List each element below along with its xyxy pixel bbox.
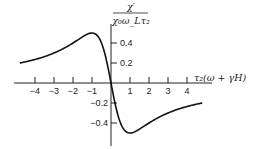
x-axis-label: τ₂(ω + γH) [194,72,246,83]
x-tick-label: −1 [87,86,97,96]
x-tick-labels: −4−3−2−11234 [30,86,190,96]
y-tick-label: 0.4 [120,38,133,48]
x-tick-label: −4 [30,86,40,96]
y-axis-label-numerator: χ′ [126,1,136,12]
x-tick-label: 1 [127,86,132,96]
x-tick-label: −2 [68,86,78,96]
y-tick-label: −0.4 [90,118,108,128]
x-tick-label: 3 [165,86,170,96]
y-axis-label-denominator: χ₀ω_Lτ₂ [111,15,150,27]
chart: −4−3−2−11234 0.40.2−0.2−0.4 χ′ χ₀ω_Lτ₂ τ… [0,0,258,149]
x-tick-label: 4 [184,86,189,96]
y-tick-label: 0.2 [120,58,133,68]
x-tick-label: 2 [146,86,151,96]
axes [14,24,212,146]
x-tick-label: −3 [49,86,59,96]
y-tick-label: −0.2 [90,98,108,108]
